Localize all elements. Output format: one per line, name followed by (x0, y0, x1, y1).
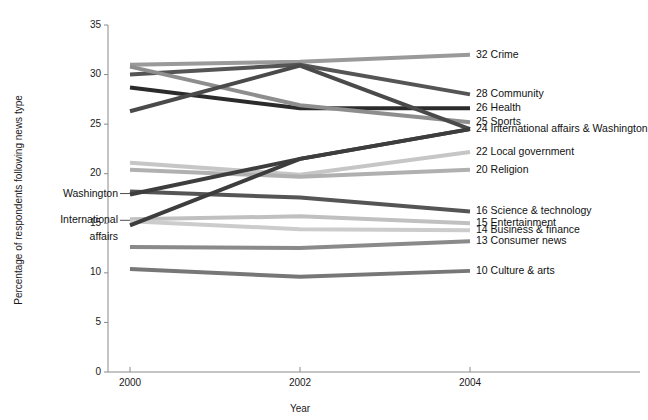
series-line (130, 241, 470, 248)
annotation-washington: Washington (63, 187, 118, 199)
legend-label: 26 Health (476, 101, 521, 113)
x-tick-label: 2002 (289, 377, 312, 388)
y-tick-label: 25 (90, 118, 102, 129)
series-line (130, 66, 470, 129)
x-axis: 200020022004 (108, 367, 640, 388)
x-axis-title: Year (290, 403, 311, 414)
y-tick-label: 20 (90, 167, 102, 178)
x-tick-label: 2004 (459, 377, 482, 388)
annotation-international-affairs-line1: International (60, 213, 118, 225)
annotations: WashingtonInternationalaffairs (60, 187, 130, 243)
legend-label: 28 Community (476, 87, 544, 99)
legend-label: 20 Religion (476, 163, 529, 175)
series-line (130, 192, 470, 212)
y-tick-label: 30 (90, 68, 102, 79)
y-tick-label: 5 (95, 316, 101, 327)
x-tick-label: 2000 (119, 377, 142, 388)
series-line (130, 129, 470, 194)
series-line (130, 269, 470, 277)
legend-label: 16 Science & technology (476, 204, 592, 216)
y-axis-title: Percentage of respondents following news… (13, 95, 24, 305)
legend: 32 Crime28 Community26 Health25 Sports24… (476, 48, 648, 276)
legend-label: 32 Crime (476, 48, 519, 60)
annotation-international-affairs-line2: affairs (90, 230, 118, 242)
y-tick-label: 10 (90, 266, 102, 277)
y-tick-label: 0 (95, 366, 101, 377)
legend-label: 10 Culture & arts (476, 264, 555, 276)
legend-label: 22 Local government (476, 145, 574, 157)
chart-canvas: 05101520253035 200020022004 Percentage o… (0, 0, 648, 420)
series-lines (130, 55, 470, 277)
y-tick-label: 35 (90, 19, 102, 30)
news-type-line-chart: 05101520253035 200020022004 Percentage o… (0, 0, 648, 420)
legend-label: 13 Consumer news (476, 234, 566, 246)
legend-label: 24 International affairs & Washington (476, 122, 648, 134)
